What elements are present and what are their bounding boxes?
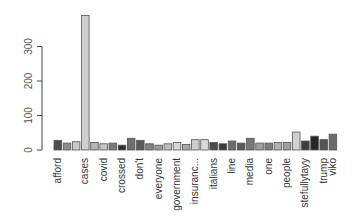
bar	[329, 134, 337, 150]
bar	[63, 143, 71, 150]
x-tick-label: people	[281, 158, 292, 188]
x-tick-label: line	[226, 158, 237, 174]
bar	[164, 144, 172, 150]
x-tick-label: italians	[208, 158, 219, 189]
bar	[72, 142, 80, 150]
x-tick-label: media	[244, 158, 255, 186]
bar	[219, 144, 227, 150]
bar	[311, 136, 319, 150]
bar	[274, 142, 282, 150]
x-tick-label: covid	[98, 158, 109, 181]
bar	[182, 144, 190, 150]
x-tick-label: crossed	[116, 158, 127, 193]
x-tick-label: one	[263, 158, 274, 175]
bar	[109, 143, 117, 150]
x-tick-label: don't	[134, 158, 145, 180]
bar	[201, 140, 209, 150]
bar	[247, 138, 255, 150]
bar	[54, 140, 62, 150]
bar	[173, 142, 181, 150]
x-axis-labels: affordcasescovidcrosseddon'teveryonegove…	[52, 158, 338, 211]
bar	[127, 138, 135, 150]
bar	[256, 143, 264, 150]
bar	[265, 143, 273, 150]
y-tick-label: 100	[23, 107, 34, 124]
bar	[237, 143, 245, 150]
bar-chart: 0100200300 affordcasescovidcrosseddon'te…	[0, 0, 354, 224]
y-tick-label: 200	[23, 72, 34, 89]
x-tick-label: insuranc...	[189, 158, 200, 204]
bar	[82, 15, 90, 150]
bar	[283, 142, 291, 150]
bar	[137, 140, 145, 150]
x-tick-label: stefullytayy	[299, 158, 310, 207]
bar	[146, 144, 154, 150]
bar	[192, 140, 200, 150]
bar	[100, 144, 108, 150]
y-axis: 0100200300	[23, 38, 42, 153]
bar	[91, 142, 99, 150]
bar	[118, 145, 126, 150]
bar	[210, 142, 218, 150]
bar	[228, 141, 236, 150]
x-tick-label: everyone	[153, 158, 164, 200]
x-tick-label: cases	[79, 158, 90, 184]
y-tick-label: 0	[23, 147, 34, 153]
x-tick-label: government	[171, 158, 182, 211]
x-tick-label: afford	[52, 158, 63, 183]
bars	[54, 15, 337, 150]
bar	[302, 141, 310, 150]
bar	[155, 145, 163, 150]
x-tick-label: viko	[327, 158, 338, 176]
y-tick-label: 300	[23, 38, 34, 55]
bar	[320, 140, 328, 150]
bar	[292, 132, 300, 150]
